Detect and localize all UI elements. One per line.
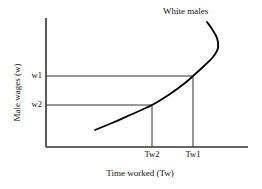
chart-figure: Male wages (w) Time worked (Tw) w1 w2 Tw… (0, 0, 262, 189)
x-axis-label: Time worked (Tw) (60, 169, 220, 178)
y-axis-label: Male wages (w) (13, 46, 22, 140)
plot-area (0, 0, 262, 189)
curve-annotation-white-males: White males (163, 7, 208, 16)
x-tick-label-tw1: Tw1 (175, 150, 211, 159)
y-tick-label-w2: w2 (24, 100, 42, 109)
y-tick-label-w1: w1 (24, 71, 42, 80)
x-tick-label-tw2: Tw2 (134, 150, 170, 159)
